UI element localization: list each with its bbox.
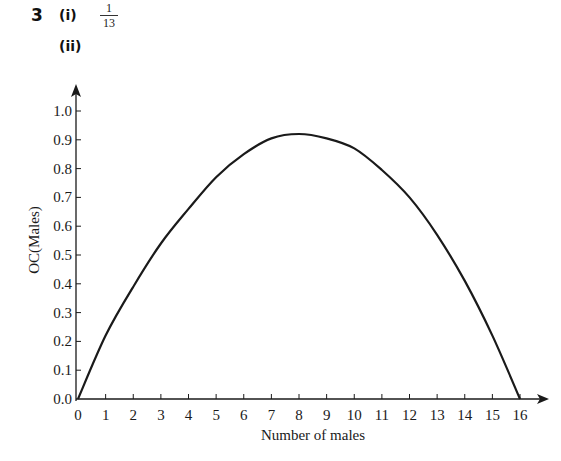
x-tick-label: 11 [375,407,389,423]
y-axis-ticks: 0.00.10.20.30.40.50.60.70.80.91.0 [53,103,81,407]
y-tick-label: 0.8 [53,161,72,177]
y-axis-label: OC(Males) [26,206,43,274]
y-tick-label: 0.9 [53,132,72,148]
x-tick-label: 12 [402,407,417,423]
y-tick-label: 1.0 [53,103,72,119]
x-tick-label: 15 [485,407,500,423]
axes [71,84,549,404]
y-tick-label: 0.4 [53,276,72,292]
x-tick-label: 8 [295,407,303,423]
x-tick-label: 4 [185,407,193,423]
y-tick-label: 0.5 [53,247,72,263]
x-tick-label: 10 [347,407,362,423]
x-tick-label: 6 [240,407,248,423]
x-axis-label: Number of males [261,427,365,443]
oc-curve [78,134,520,399]
x-tick-label: 0 [74,407,82,423]
oc-males-chart: 012345678910111213141516 0.00.10.20.30.4… [0,0,561,461]
y-tick-label: 0.0 [53,391,72,407]
y-tick-label: 0.6 [53,218,72,234]
x-tick-label: 13 [430,407,445,423]
y-tick-label: 0.2 [53,333,72,349]
x-tick-label: 1 [102,407,110,423]
x-tick-label: 3 [157,407,165,423]
y-tick-label: 0.7 [53,189,72,205]
x-tick-label: 5 [212,407,220,423]
y-tick-label: 0.1 [53,362,72,378]
y-tick-label: 0.3 [53,305,72,321]
x-tick-label: 2 [130,407,138,423]
x-tick-label: 16 [513,407,529,423]
x-tick-label: 9 [323,407,331,423]
x-tick-label: 7 [268,407,276,423]
x-tick-label: 14 [457,407,473,423]
